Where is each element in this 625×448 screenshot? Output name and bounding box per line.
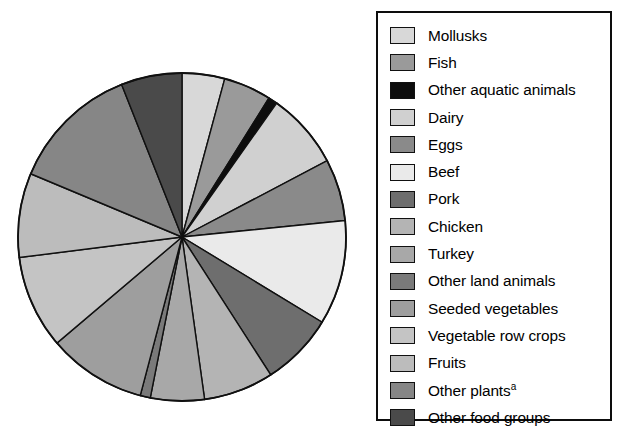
pie-chart-svg — [12, 62, 357, 417]
legend-item: Dairy — [378, 104, 610, 131]
legend-list: MollusksFishOther aquatic animalsDairyEg… — [378, 22, 610, 431]
legend-swatch-icon — [390, 273, 415, 290]
legend-item-label: Fish — [428, 54, 457, 72]
legend-item-label: Pork — [428, 190, 459, 208]
legend-item-label: Dairy — [428, 109, 463, 127]
legend-item: Eggs — [378, 131, 610, 158]
legend-swatch-icon — [390, 164, 415, 181]
legend-swatch-icon — [390, 54, 415, 71]
legend-item-label: Eggs — [428, 136, 463, 154]
legend-item-label: Mollusks — [428, 27, 487, 45]
legend-item-label: Other land animals — [428, 272, 555, 290]
legend-item-label: Seeded vegetables — [428, 300, 558, 318]
legend-swatch-icon — [390, 191, 415, 208]
legend-item-label: Vegetable row crops — [428, 327, 566, 345]
legend-item-label: Chicken — [428, 218, 483, 236]
legend-item: Seeded vegetables — [378, 295, 610, 322]
legend-swatch-icon — [390, 355, 415, 372]
pie-chart-figure: MollusksFishOther aquatic animalsDairyEg… — [0, 0, 625, 448]
legend-swatch-icon — [390, 382, 415, 399]
legend-swatch-icon — [390, 218, 415, 235]
legend-item: Other land animals — [378, 268, 610, 295]
legend-item-label: Other plantsa — [428, 382, 516, 400]
legend-swatch-icon — [390, 409, 415, 426]
legend-item: Other food groups — [378, 404, 610, 431]
legend-item: Vegetable row crops — [378, 322, 610, 349]
legend-item: Chicken — [378, 213, 610, 240]
legend-item: Fruits — [378, 350, 610, 377]
legend-item: Pork — [378, 186, 610, 213]
legend-item: Other aquatic animals — [378, 77, 610, 104]
legend-swatch-icon — [390, 327, 415, 344]
legend-item: Mollusks — [378, 22, 610, 49]
chart-legend: MollusksFishOther aquatic animalsDairyEg… — [376, 11, 612, 421]
legend-item-label: Turkey — [428, 245, 474, 263]
legend-swatch-icon — [390, 300, 415, 317]
legend-swatch-icon — [390, 109, 415, 126]
legend-swatch-icon — [390, 246, 415, 263]
legend-item-label: Beef — [428, 163, 459, 181]
pie-slice-group — [18, 73, 346, 401]
legend-item: Fish — [378, 49, 610, 76]
legend-footnote-marker: a — [511, 380, 516, 391]
legend-swatch-icon — [390, 136, 415, 153]
legend-item: Other plantsa — [378, 377, 610, 404]
legend-item-label: Other aquatic animals — [428, 81, 576, 99]
legend-item-label: Other food groups — [428, 409, 550, 427]
legend-item: Beef — [378, 158, 610, 185]
pie-chart-area — [12, 62, 357, 417]
legend-item-label: Fruits — [428, 354, 466, 372]
legend-swatch-icon — [390, 27, 415, 44]
legend-item: Turkey — [378, 240, 610, 267]
legend-swatch-icon — [390, 82, 415, 99]
